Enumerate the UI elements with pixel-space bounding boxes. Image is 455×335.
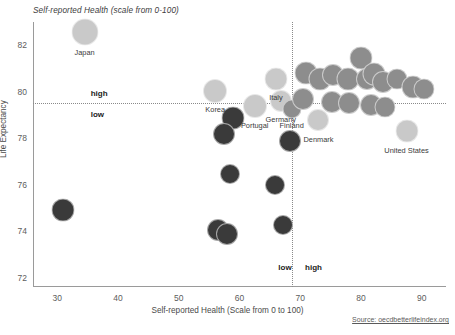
bubble-label: Italy	[269, 93, 283, 102]
bubble-point[interactable]	[213, 123, 235, 145]
y-axis-tick-label: 74	[18, 226, 27, 236]
bubble-label: Portugal	[241, 121, 269, 130]
bubble-united-states[interactable]	[395, 120, 418, 143]
source-link[interactable]: Source: oecdbetterlifeindex.org	[352, 316, 449, 323]
bubble-label: Korea	[205, 105, 225, 114]
bubble-portugal[interactable]	[243, 94, 267, 118]
bubble-point[interactable]	[279, 130, 301, 152]
bubble-point[interactable]	[220, 164, 240, 184]
y-axis-line	[33, 22, 34, 287]
bubble-italy[interactable]	[264, 67, 287, 90]
x-axis-tick-label: 90	[417, 293, 426, 303]
bubble-label: United States	[384, 146, 428, 155]
x-axis-tick-label: 40	[113, 293, 122, 303]
x-axis-tick-label: 70	[296, 293, 305, 303]
x-axis-line	[33, 286, 446, 287]
bubble-point[interactable]	[265, 175, 285, 195]
x-axis-title: Self-reported Health (Scale from 0 to 10…	[0, 306, 455, 315]
y-axis-tick-label: 80	[18, 87, 27, 97]
quadrant-label-low: low	[278, 263, 291, 272]
y-axis-tick-label: 72	[18, 273, 27, 283]
bubble-point[interactable]	[292, 88, 314, 110]
bubble-point[interactable]	[216, 223, 238, 245]
x-axis-tick-label: 50	[174, 293, 183, 303]
quadrant-vertical-line	[292, 22, 293, 287]
y-axis-tick-label: 76	[18, 180, 27, 190]
x-axis-tick-label: 80	[356, 293, 365, 303]
bubble-point[interactable]	[375, 96, 396, 117]
quadrant-label-low: low	[91, 109, 104, 118]
quadrant-label-high: high	[305, 263, 322, 272]
quadrant-label-high: high	[91, 88, 108, 97]
bubble-point[interactable]	[273, 215, 293, 235]
chart-title: Self-reported Health (scale from 0-100)	[33, 6, 179, 15]
bubble-point[interactable]	[414, 79, 435, 100]
bubble-point[interactable]	[52, 199, 75, 222]
bubble-point[interactable]	[338, 92, 360, 114]
plot-area: 82807876747230405060708090JapanKoreaPort…	[33, 22, 446, 287]
y-axis-tick-label: 82	[18, 40, 27, 50]
bubble-label: Finland	[280, 121, 304, 130]
bubble-korea[interactable]	[203, 79, 227, 103]
x-axis-tick-label: 30	[53, 293, 62, 303]
bubble-japan[interactable]	[71, 19, 98, 46]
bubble-label: Japan	[75, 48, 95, 57]
y-axis-title: Life Expectancy	[0, 100, 8, 158]
y-axis-tick-label: 78	[18, 133, 27, 143]
bubble-label: Denmark	[303, 135, 333, 144]
chart-container: Self-reported Health (scale from 0-100) …	[0, 0, 455, 335]
x-axis-tick-label: 60	[235, 293, 244, 303]
